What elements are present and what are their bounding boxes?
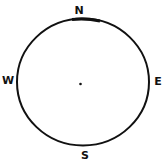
compass-diagram [0,0,166,164]
label-south: S [81,150,89,161]
compass-circle [17,19,149,146]
center-dot [79,83,82,86]
north-arc-highlight [72,19,100,21]
label-west: W [2,75,14,86]
label-east: E [154,76,162,87]
label-north: N [74,5,83,16]
